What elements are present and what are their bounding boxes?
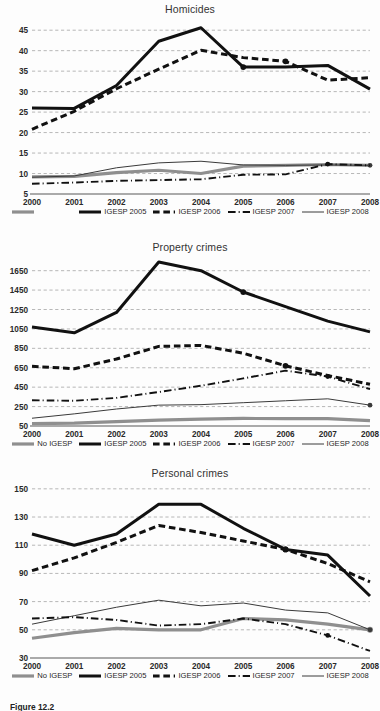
legend-swatch-igesp_2005 <box>78 439 102 449</box>
legend-item-igesp_2005[interactable]: IGESP 2005 <box>78 207 146 217</box>
series-line-igesp_2006 <box>32 345 370 384</box>
y-axis-tick-label: 150 <box>14 485 28 494</box>
legend-swatch-no_igesp <box>11 439 35 449</box>
legend-item-igesp_2005[interactable]: IGESP 2005 <box>78 671 146 681</box>
y-axis-tick-label: 1250 <box>10 306 29 315</box>
y-axis-tick-label: 250 <box>14 403 28 412</box>
legend-swatch-igesp_2008 <box>301 439 325 449</box>
y-axis-tick-label: 50 <box>19 626 29 635</box>
legend-label-igesp_2007: IGESP 2007 <box>253 439 295 449</box>
chart-panel-homicides: Homicides 510152025303540452000200120022… <box>0 0 380 238</box>
figure-caption: Figure 12.2 <box>10 702 370 711</box>
legend-label-igesp_2006: IGESP 2006 <box>178 439 220 449</box>
legend-swatch-igesp_2006 <box>152 671 176 681</box>
y-axis-tick-label: 30 <box>19 88 29 97</box>
series-marker-igesp_2008 <box>368 627 373 632</box>
y-axis-tick-label: 45 <box>19 26 29 35</box>
series-line-igesp_2007 <box>32 371 370 401</box>
series-line-no_igesp <box>32 619 370 639</box>
legend-swatch-igesp_2007 <box>227 439 251 449</box>
figure-container: Homicides 510152025303540452000200120022… <box>0 0 380 711</box>
y-axis-tick-label: 35 <box>19 67 29 76</box>
chart-panel-property-crimes: Property crimes 502504506508501050125014… <box>0 238 380 464</box>
y-axis-tick-label: 130 <box>14 513 28 522</box>
series-marker-igesp_2008 <box>368 403 373 408</box>
legend-label-igesp_2005: IGESP 2005 <box>104 671 146 681</box>
legend-item-igesp_2007[interactable]: IGESP 2007 <box>227 207 295 217</box>
y-axis-tick-label: 1450 <box>10 286 29 295</box>
plot-area-homicides: 5101520253035404520002001200220032004200… <box>0 18 380 210</box>
y-axis-tick-label: 450 <box>14 383 28 392</box>
series-line-igesp_2008 <box>32 600 370 630</box>
chart-svg-personal: 3050709011013015020002001200220032004200… <box>0 482 380 674</box>
series-marker-igesp_2006 <box>283 58 289 64</box>
chart-svg-homicides: 5101520253035404520002001200220032004200… <box>0 18 380 210</box>
series-line-igesp_2006 <box>32 50 370 129</box>
legend-label-igesp_2005: IGESP 2005 <box>104 207 146 217</box>
legend-item-igesp_2008[interactable]: IGESP 2008 <box>301 207 369 217</box>
chart-svg-property: 5025045065085010501250145016502000200120… <box>0 256 380 442</box>
plot-area-personal-crimes: 3050709011013015020002001200220032004200… <box>0 482 380 674</box>
legend-label-no_igesp: No IGESP <box>37 671 72 681</box>
series-marker-igesp_2007 <box>325 162 330 167</box>
legend-item-igesp_2006[interactable]: IGESP 2006 <box>152 207 220 217</box>
legend-swatch-igesp_2008 <box>301 207 325 217</box>
chart-title-property-crimes: Property crimes <box>0 238 380 256</box>
y-axis-tick-label: 10 <box>19 170 29 179</box>
y-axis-tick-label: 650 <box>14 364 28 373</box>
legend-swatch-no_igesp <box>11 207 35 217</box>
series-line-igesp_2005 <box>32 262 370 333</box>
y-axis-tick-label: 90 <box>19 569 29 578</box>
legend-label-no_igesp: No IGESP <box>37 439 72 449</box>
series-marker-igesp_2005 <box>283 547 289 553</box>
y-axis-tick-label: 1050 <box>10 325 29 334</box>
legend-swatch-igesp_2005 <box>78 207 102 217</box>
chart-title-homicides: Homicides <box>0 0 380 18</box>
legend-item-no_igesp[interactable]: No IGESP <box>11 671 72 681</box>
y-axis-tick-label: 850 <box>14 344 28 353</box>
legend-property-crimes: No IGESPIGESP 2005IGESP 2006IGESP 2007IG… <box>0 437 380 451</box>
y-axis-tick-label: 110 <box>15 541 29 550</box>
series-marker-igesp_2005 <box>240 64 246 70</box>
series-line-no_igesp <box>32 165 370 177</box>
legend-swatch-igesp_2008 <box>301 671 325 681</box>
y-axis-tick-label: 1650 <box>10 267 29 276</box>
legend-label-igesp_2008: IGESP 2008 <box>327 207 369 217</box>
legend-label-igesp_2006: IGESP 2006 <box>178 207 220 217</box>
y-axis-tick-label: 15 <box>19 149 29 158</box>
legend-swatch-igesp_2006 <box>152 439 176 449</box>
series-line-igesp_2005 <box>32 504 370 596</box>
y-axis-tick-label: 70 <box>19 598 29 607</box>
series-line-igesp_2008 <box>32 399 370 418</box>
legend-label-igesp_2007: IGESP 2007 <box>253 671 295 681</box>
legend-item-igesp_2007[interactable]: IGESP 2007 <box>227 439 295 449</box>
legend-item-igesp_2008[interactable]: IGESP 2008 <box>301 439 369 449</box>
legend-swatch-igesp_2005 <box>78 671 102 681</box>
series-line-no_igesp <box>32 418 370 423</box>
legend-personal-crimes: No IGESPIGESP 2005IGESP 2006IGESP 2007IG… <box>0 669 380 683</box>
legend-item-igesp_2008[interactable]: IGESP 2008 <box>301 671 369 681</box>
y-axis-tick-label: 20 <box>19 129 29 138</box>
plot-area-property-crimes: 5025045065085010501250145016502000200120… <box>0 256 380 442</box>
legend-item-no_igesp[interactable]: No IGESP <box>11 207 72 217</box>
legend-item-igesp_2007[interactable]: IGESP 2007 <box>227 671 295 681</box>
legend-homicides: No IGESPIGESP 2005IGESP 2006IGESP 2007IG… <box>0 205 380 219</box>
legend-label-igesp_2008: IGESP 2008 <box>327 671 369 681</box>
legend-item-igesp_2006[interactable]: IGESP 2006 <box>152 671 220 681</box>
legend-swatch-igesp_2006 <box>152 207 176 217</box>
y-axis-tick-label: 25 <box>19 108 29 117</box>
legend-label-igesp_2006: IGESP 2006 <box>178 671 220 681</box>
series-marker-igesp_2007 <box>325 633 330 638</box>
legend-label-igesp_2005: IGESP 2005 <box>104 439 146 449</box>
legend-label-igesp_2007: IGESP 2007 <box>253 207 295 217</box>
legend-item-igesp_2006[interactable]: IGESP 2006 <box>152 439 220 449</box>
chart-panel-personal-crimes: Personal crimes 305070901101301502000200… <box>0 464 380 696</box>
legend-swatch-igesp_2007 <box>227 207 251 217</box>
legend-label-igesp_2008: IGESP 2008 <box>327 439 369 449</box>
chart-title-personal-crimes: Personal crimes <box>0 464 380 482</box>
series-marker-igesp_2005 <box>240 289 246 295</box>
legend-item-igesp_2005[interactable]: IGESP 2005 <box>78 439 146 449</box>
series-marker-igesp_2006 <box>283 363 289 369</box>
series-line-igesp_2005 <box>32 28 370 109</box>
legend-item-no_igesp[interactable]: No IGESP <box>11 439 72 449</box>
